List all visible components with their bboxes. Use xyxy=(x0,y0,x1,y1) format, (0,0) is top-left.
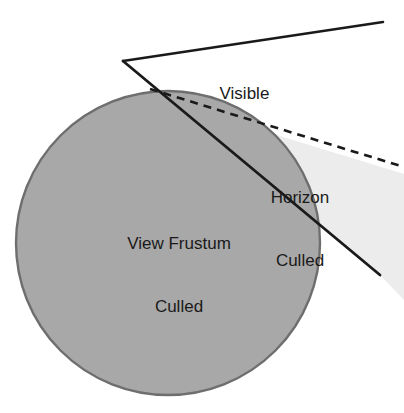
horizon-culling-diagram: Visible Horizon Culled View Frustum Cull… xyxy=(0,0,404,413)
frustum-upper-edge xyxy=(123,22,383,61)
planet-circle xyxy=(16,91,320,395)
diagram-canvas xyxy=(0,0,404,413)
